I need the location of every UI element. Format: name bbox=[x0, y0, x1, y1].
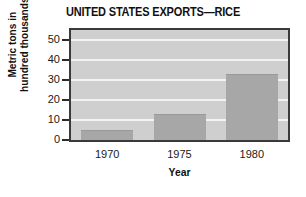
y-axis-tick-mark bbox=[62, 59, 69, 60]
x-axis-tick-label: 1980 bbox=[222, 148, 282, 160]
y-axis-tick-label: 30 bbox=[34, 74, 60, 85]
y-axis-tick-label: 10 bbox=[34, 114, 60, 125]
y-axis-tick-label: 20 bbox=[34, 94, 60, 105]
x-axis-tick-label: 1970 bbox=[77, 148, 137, 160]
y-axis-tick-mark bbox=[62, 119, 69, 120]
x-axis-tick-label: 1975 bbox=[150, 148, 210, 160]
y-axis-tick-label: 0 bbox=[34, 134, 60, 145]
bar bbox=[226, 74, 278, 140]
bar bbox=[154, 114, 206, 140]
bar-chart: UNITED STATES EXPORTS—RICE Metric tons i… bbox=[0, 0, 306, 197]
y-axis-tick-mark bbox=[62, 99, 69, 100]
y-axis-tick-label: 40 bbox=[34, 54, 60, 65]
x-axis-tick-labels: 197019751980 bbox=[69, 148, 290, 164]
x-axis-title: Year bbox=[80, 166, 279, 178]
y-axis-tick-mark bbox=[62, 39, 69, 40]
y-axis-tick-mark bbox=[62, 79, 69, 80]
bar bbox=[81, 130, 133, 140]
y-axis-tick-mark bbox=[62, 139, 69, 140]
y-axis-tick-label: 50 bbox=[34, 34, 60, 45]
bars-layer bbox=[71, 30, 288, 140]
y-axis-tick-labels: 01020304050 bbox=[34, 0, 60, 197]
plot-area bbox=[69, 28, 290, 142]
